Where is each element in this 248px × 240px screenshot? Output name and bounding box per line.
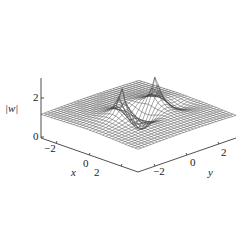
y-tick-0 xyxy=(186,153,187,155)
y-tick-2 xyxy=(218,142,219,144)
y-axis-label: y xyxy=(208,167,213,178)
x-tick-2 xyxy=(121,164,122,166)
z-tick-label-0: 0 xyxy=(33,131,39,142)
x-tick-label-2: 2 xyxy=(94,167,100,178)
x-tick-m2 xyxy=(56,141,57,143)
z-axis-label: |w| xyxy=(5,103,18,114)
y-tick-label-2: 2 xyxy=(221,147,227,158)
x-tick-label-0: 0 xyxy=(83,158,89,169)
y-tick-label-0: 0 xyxy=(190,157,196,168)
x-axis-label: x xyxy=(71,167,76,178)
x-tick-label-m2: −2 xyxy=(44,143,56,154)
z-tick-label-2: 2 xyxy=(33,92,39,103)
y-tick-label-m2: −2 xyxy=(153,166,165,177)
wireframe-mesh xyxy=(41,77,236,149)
